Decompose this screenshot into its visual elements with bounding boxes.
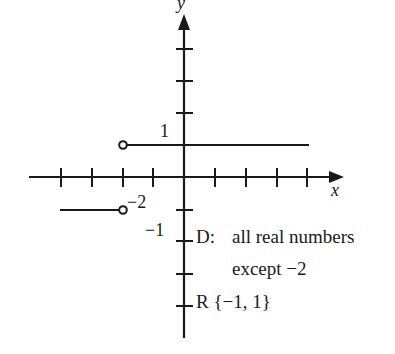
x-axis-label: x bbox=[330, 180, 339, 200]
open-point-upper bbox=[119, 141, 127, 149]
tick-label-1: 1 bbox=[160, 121, 169, 141]
open-point-lower bbox=[119, 206, 127, 214]
domain-line-2: except −2 bbox=[232, 258, 307, 279]
tick-label-neg2: −2 bbox=[127, 192, 146, 212]
tick-label-neg1: −1 bbox=[145, 220, 164, 240]
range-text: R {−1, 1} bbox=[196, 291, 271, 312]
domain-line-1: all real numbers bbox=[232, 226, 354, 247]
y-axis-arrow-icon bbox=[178, 14, 190, 30]
y-axis-label: y bbox=[175, 0, 185, 13]
domain-prefix: D: bbox=[196, 226, 215, 247]
function-graph: y x 1 −2 −1 D: all real numbers except −… bbox=[0, 0, 395, 354]
